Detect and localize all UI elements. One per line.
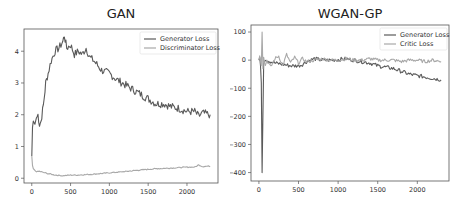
x-tick-label: 1500 [369, 186, 386, 194]
y-tick-label: 3 [15, 79, 19, 87]
x-tick-label: 0 [257, 186, 261, 194]
gan-plot-area: 050010001500200001234Generator LossDiscr… [0, 0, 230, 209]
y-tick-label: 4 [15, 48, 19, 56]
legend-label: Generator Loss [160, 35, 210, 43]
x-tick-label: 500 [64, 188, 76, 196]
y-tick-label: 1 [15, 143, 19, 151]
x-tick-label: 0 [30, 188, 34, 196]
discriminator-loss-line [32, 156, 210, 176]
y-tick-label: 2 [15, 111, 19, 119]
y-tick-label: 100 [234, 28, 246, 36]
y-tick-label: 0 [242, 56, 246, 64]
legend: Generator LossCritic Loss [380, 28, 450, 50]
legend-label: Discriminator Loss [160, 44, 221, 52]
y-tick-label: −200 [230, 113, 246, 121]
wgan-gp-plot-area: 05001000150020001000−100−200−300−400Gene… [230, 0, 460, 209]
legend: Generator LossDiscriminator Loss [140, 32, 221, 54]
legend-label: Critic Loss [400, 40, 434, 48]
x-tick-label: 1000 [101, 188, 118, 196]
x-tick-label: 1000 [330, 186, 347, 194]
x-tick-label: 2000 [179, 188, 196, 196]
x-tick-label: 500 [292, 186, 304, 194]
y-tick-label: −100 [230, 85, 246, 93]
wgan-gp-loss-chart: WGAN-GP 05001000150020001000−100−200−300… [230, 0, 460, 209]
x-tick-label: 1500 [140, 188, 157, 196]
legend-label: Generator Loss [400, 31, 450, 39]
gan-loss-chart: GAN 050010001500200001234Generator LossD… [0, 0, 230, 209]
generator-loss-line [259, 57, 441, 173]
y-tick-label: −300 [230, 141, 246, 149]
generator-loss-line [32, 37, 210, 156]
y-tick-label: −400 [230, 169, 246, 177]
x-tick-label: 2000 [409, 186, 426, 194]
y-tick-label: 0 [15, 175, 19, 183]
